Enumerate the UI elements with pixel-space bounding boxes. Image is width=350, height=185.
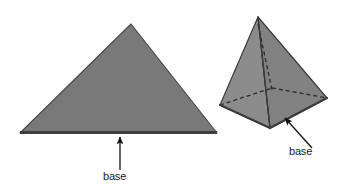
- triangle-base-annotation: base: [103, 137, 126, 182]
- triangle-figure: [20, 24, 217, 133]
- geometry-figure: base base: [0, 0, 350, 185]
- pyramid-base-arrow: [285, 118, 312, 148]
- triangle-shape: [20, 24, 217, 133]
- triangle-base-label: base: [103, 170, 126, 182]
- pyramid-base-annotation: base: [285, 118, 312, 157]
- figure-canvas: base base: [0, 0, 350, 185]
- pyramid-figure: [220, 17, 327, 128]
- pyramid-base-label: base: [289, 145, 312, 157]
